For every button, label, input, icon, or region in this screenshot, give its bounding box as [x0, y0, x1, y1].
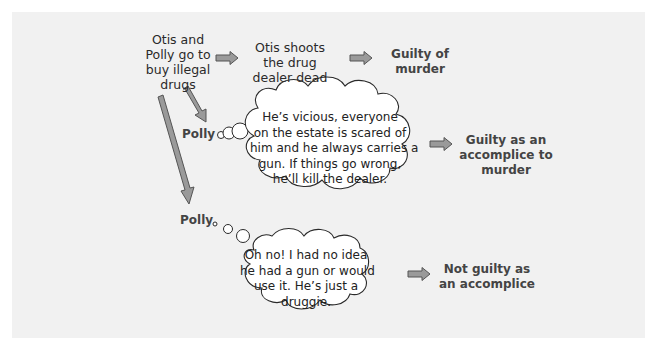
text-line: buy illegal [128, 62, 228, 77]
diagonal-arrow-icon [158, 95, 194, 204]
text-line: he had a gun or would [240, 264, 372, 280]
text-line: Guilty of [380, 47, 460, 62]
text-line: Polly go to [128, 47, 228, 62]
text-line: Guilty as an [456, 133, 556, 148]
text-line: He’s vicious, everyone [250, 110, 410, 126]
speaker-label-polly: Polly [180, 213, 216, 228]
text-line: druggie. [240, 295, 372, 311]
verdict-guilty-as-accomplice: Guilty as an accomplice to murder [456, 133, 556, 178]
speaker-name: Polly [180, 213, 213, 227]
text-line: murder [380, 62, 460, 77]
text-line: Otis shoots [240, 40, 340, 55]
text-line: on the estate is scared of [250, 126, 410, 142]
shooting-event-text: Otis shoots the drug dealer dead [240, 40, 340, 85]
start-event-text: Otis and Polly go to buy illegal drugs [128, 32, 228, 92]
right-arrow-icon [350, 52, 372, 65]
text-line: an accomplice [437, 277, 537, 292]
text-line: gun. If things go wrong, [250, 157, 410, 173]
thought-bubble-dots-icon [213, 222, 250, 243]
text-line: accomplice to [456, 148, 556, 163]
thought-text-unaware: Oh no! I had no idea he had a gun or wou… [240, 248, 372, 310]
text-line: drugs [128, 77, 228, 92]
text-line: he’ll kill the dealer. [250, 172, 410, 188]
text-line: Otis and [128, 32, 228, 47]
text-line: Oh no! I had no idea [240, 248, 372, 264]
text-line: Not guilty as [437, 262, 537, 277]
text-line: murder [456, 163, 556, 178]
thought-bubble-dots-icon [218, 123, 249, 139]
text-line: the drug [240, 55, 340, 70]
verdict-not-guilty-as-accomplice: Not guilty as an accomplice [437, 262, 537, 292]
thought-text-accomplice: He’s vicious, everyone on the estate is … [250, 110, 410, 188]
speaker-label-polly: Polly [182, 127, 218, 142]
verdict-guilty-of-murder: Guilty of murder [380, 47, 460, 77]
speaker-name: Polly [182, 127, 215, 141]
right-arrow-icon [430, 138, 452, 151]
text-line: use it. He’s just a [240, 279, 372, 295]
right-arrow-icon [408, 268, 430, 281]
text-line: dealer dead [240, 70, 340, 85]
text-line: him and he always carries a [250, 141, 410, 157]
